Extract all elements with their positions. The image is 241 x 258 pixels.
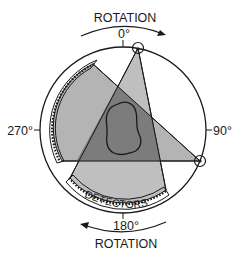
scanned-object — [106, 102, 141, 154]
angle-label-270: 270° — [7, 124, 33, 138]
rotation-label-bottom: ROTATION — [95, 237, 158, 251]
angle-label-0: 0° — [118, 27, 130, 41]
angle-label-90: 90° — [213, 124, 232, 138]
angle-label-180: 180° — [113, 219, 139, 233]
ct-scan-diagram: ROTATION 0° 90° 270° 180° ROTATION DETEC… — [0, 0, 241, 258]
rotation-label-top: ROTATION — [94, 11, 157, 25]
